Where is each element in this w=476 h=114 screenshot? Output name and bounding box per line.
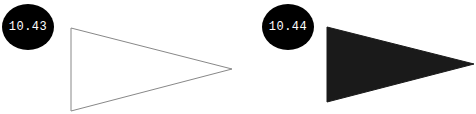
step-badge-1043: 10.43 [2, 4, 54, 50]
outline-triangle-icon [71, 28, 232, 111]
triangle-shapes [0, 0, 476, 114]
step-badge-1044: 10.44 [262, 4, 314, 50]
badge-label: 10.43 [9, 20, 48, 34]
diagram-canvas: 10.43 10.44 [0, 0, 476, 114]
badge-label: 10.44 [269, 20, 308, 34]
filled-triangle-icon [327, 27, 474, 102]
